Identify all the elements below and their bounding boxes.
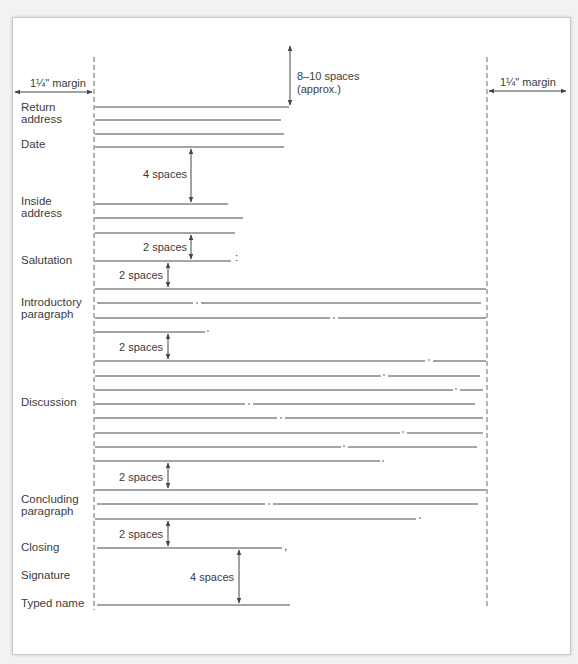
left-margin-label: 1¼" margin: [30, 77, 86, 89]
return-address-lines: [95, 107, 289, 120]
section-labels: Return address Date Inside address Salut…: [21, 101, 84, 609]
spacing-label: 2 spaces: [119, 341, 164, 353]
label-return-address: Return: [21, 101, 56, 113]
spacing-inside-to-salutation: 2 spaces: [143, 235, 191, 259]
top-spacing-approx-label: (approx.): [297, 83, 341, 95]
spacing-label: 4 spaces: [143, 168, 188, 180]
concluding-paragraph-lines: [95, 490, 486, 519]
spacing-label: 2 spaces: [119, 471, 164, 483]
label-date: Date: [21, 138, 45, 150]
spacing-intro-to-discussion: 2 spaces: [119, 334, 168, 359]
label-discussion: Discussion: [21, 396, 77, 408]
inside-address-lines: [95, 204, 243, 233]
left-margin-annotation: 1¼" margin: [15, 77, 92, 92]
label-signature: Signature: [21, 569, 70, 581]
label-salutation: Salutation: [21, 254, 72, 266]
label-typed-name: Typed name: [21, 597, 84, 609]
letter-layout-diagram: 1¼" margin 1¼" margin 8–10 spaces (appro…: [0, 0, 578, 664]
date-lines: [95, 134, 284, 147]
discussion-lines: [95, 359, 486, 462]
label-inside-address: Inside: [21, 195, 52, 207]
label-concluding-paragraph-2: paragraph: [21, 505, 73, 517]
spacing-label: 2 spaces: [119, 269, 164, 281]
spacing-salutation-to-intro: 2 spaces: [119, 263, 168, 287]
right-margin-annotation: 1¼" margin: [489, 76, 566, 91]
label-concluding-paragraph: Concluding: [21, 493, 79, 505]
top-spacing-label: 8–10 spaces: [297, 70, 360, 82]
spacing-date-to-inside: 4 spaces: [143, 149, 191, 202]
closing-comma: ,: [284, 540, 287, 552]
top-spacing-annotation: 8–10 spaces (approx.): [290, 46, 360, 105]
label-inside-address-2: address: [21, 207, 62, 219]
introductory-paragraph-lines: [95, 289, 486, 332]
label-introductory-paragraph-2: paragraph: [21, 308, 73, 320]
label-closing: Closing: [21, 541, 59, 553]
closing-line: ,: [97, 540, 287, 552]
right-margin-label: 1¼" margin: [500, 76, 556, 88]
label-introductory-paragraph: Introductory: [21, 296, 82, 308]
label-return-address-2: address: [21, 113, 62, 125]
spacing-closing-to-typed-name: 4 spaces: [190, 550, 239, 603]
spacing-label: 2 spaces: [119, 528, 164, 540]
spacing-concluding-to-closing: 2 spaces: [119, 521, 168, 546]
salutation-colon: :: [235, 251, 238, 263]
spacing-label: 2 spaces: [143, 241, 188, 253]
spacing-discussion-to-concluding: 2 spaces: [119, 463, 168, 488]
spacing-label: 4 spaces: [190, 571, 235, 583]
